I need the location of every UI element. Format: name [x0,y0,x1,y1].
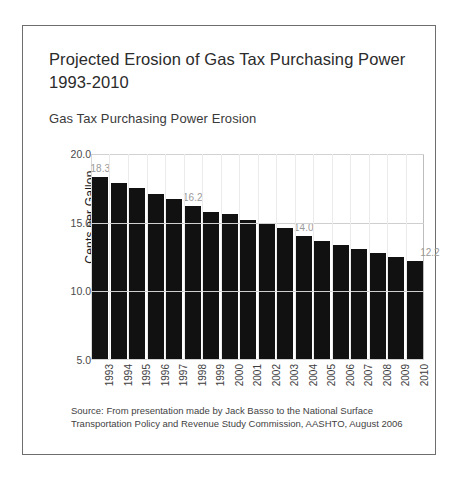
vertical-gridline [276,154,277,360]
bar-value-label: 14.0 [294,222,313,233]
x-tick-slot: 2005 [313,364,332,398]
bar-slot[interactable] [221,154,240,360]
x-tick-slot: 2003 [276,364,295,398]
vertical-gridline [313,154,314,360]
y-tick-label: 5.0 [55,354,91,366]
x-tick-slot: 1996 [147,364,166,398]
vertical-gridline [202,154,203,360]
page-title: Projected Erosion of Gas Tax Purchasing … [49,48,409,94]
bar[interactable] [333,245,349,360]
bar-slot[interactable]: 14.0 [295,154,314,360]
x-tick-slot: 2006 [332,364,351,398]
x-tick-slot: 2000 [221,364,240,398]
bar-slot[interactable] [387,154,406,360]
bar-slot[interactable] [332,154,351,360]
vertical-gridline [109,154,110,360]
bar[interactable] [203,212,219,360]
bar-slot[interactable] [165,154,184,360]
bar[interactable] [351,249,367,360]
bar[interactable] [314,241,330,360]
bar-value-label: 16.2 [183,192,202,203]
bar-value-label: 18.3 [91,163,110,174]
bar-slot[interactable] [258,154,277,360]
x-tick-slot: 1993 [91,364,110,398]
vertical-gridline [369,154,370,360]
x-tick-slot: 2009 [387,364,406,398]
x-tick-slot: 1999 [202,364,221,398]
bar[interactable]: 18.3 [92,177,108,360]
y-tick-label: 10.0 [55,285,91,297]
bar-slot[interactable]: 18.3 [91,154,110,360]
bar-slot[interactable] [313,154,332,360]
bar[interactable] [370,253,386,360]
bar[interactable] [388,257,404,360]
bar[interactable] [240,220,256,360]
vertical-gridline [295,154,296,360]
vertical-gridline [147,154,148,360]
bar-value-label: 12.2 [420,247,439,258]
bar-slot[interactable] [147,154,166,360]
x-tick-slot: 1994 [110,364,129,398]
x-tick-slot: 2004 [295,364,314,398]
vertical-gridline [184,154,185,360]
y-tick-label: 20.0 [55,148,91,160]
bar-slot[interactable]: 12.2 [406,154,425,360]
x-tick-slot: 2008 [369,364,388,398]
x-tick-slot: 1997 [165,364,184,398]
vertical-gridline [350,154,351,360]
bar[interactable]: 14.0 [296,236,312,360]
bar[interactable]: 12.2 [407,261,423,360]
chart-subtitle: Gas Tax Purchasing Power Erosion [49,110,409,128]
x-tick-slot: 1998 [184,364,203,398]
bar[interactable] [148,194,164,360]
vertical-gridline [387,154,388,360]
bar-slot[interactable] [276,154,295,360]
slide-frame: Projected Erosion of Gas Tax Purchasing … [22,25,436,455]
x-tick-slot: 2001 [239,364,258,398]
plot-area: 18.316.214.012.2 [91,154,424,360]
vertical-gridline [165,154,166,360]
x-tick-slot: 2007 [350,364,369,398]
bar-slot[interactable] [239,154,258,360]
vertical-gridline [128,154,129,360]
bar-slot[interactable]: 16.2 [184,154,203,360]
y-tick-label: 15.0 [55,217,91,229]
bar-chart: Cents per Gallon 5.010.015.020.0 18.316.… [41,148,427,398]
x-tick-slot: 2010 [406,364,425,398]
bar[interactable] [111,183,127,360]
source-note: Source: From presentation made by Jack B… [71,404,411,430]
vertical-gridline [406,154,407,360]
bar[interactable] [277,228,293,360]
x-tick-label: 2010 [419,364,430,386]
bar[interactable]: 16.2 [185,206,201,360]
x-tick-slot: 1995 [128,364,147,398]
bar[interactable] [129,188,145,360]
x-axis-ticks: 1993199419951996199719981999200020012002… [91,364,424,398]
bar[interactable] [222,214,238,360]
vertical-gridline [221,154,222,360]
vertical-gridline [258,154,259,360]
vertical-gridline [239,154,240,360]
bar-slot[interactable] [350,154,369,360]
y-axis-ticks: 5.010.015.020.0 [55,148,91,360]
bar-slot[interactable] [202,154,221,360]
x-tick-slot: 2002 [258,364,277,398]
bar-slot[interactable] [110,154,129,360]
vertical-gridline [332,154,333,360]
bar-slot[interactable] [369,154,388,360]
bar-slot[interactable] [128,154,147,360]
